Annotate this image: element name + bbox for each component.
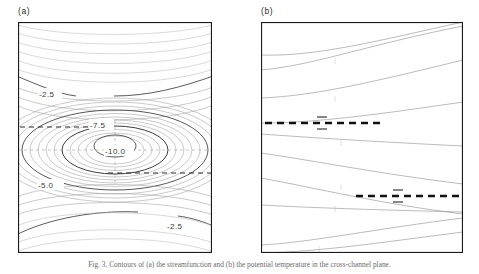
panel-b-frame (262, 23, 463, 253)
contour-line-1 (261, 26, 463, 70)
panel-a: (a) (18, 22, 212, 253)
contour-line-3 (261, 102, 463, 123)
contour-label-minus7p5: -7.5 (90, 121, 106, 130)
contour-line-5 (261, 153, 463, 184)
contour-label-minus2p5-bottom: -2.5 (167, 222, 183, 231)
figure-container: (a) (0, 0, 479, 274)
contour-group-bottom-faint-2 (18, 213, 212, 253)
panel-a-contour-labels: -2.5 -7.5 -10.0 -5.0 -2.5 (37, 88, 191, 231)
figure-caption: Fig. 3. Contours of (a) the streamfuncti… (0, 260, 479, 274)
panel-b-label: (b) (261, 6, 273, 16)
contour-label-minus5p0: -5.0 (38, 181, 54, 190)
panel-a-label: (a) (18, 6, 30, 16)
contour-line-0 (261, 22, 463, 55)
panel-b-contour-ticks (319, 58, 341, 252)
panel-a-plot: -2.5 -7.5 -10.0 -5.0 -2.5 (18, 22, 212, 253)
contour-group-top-faint (18, 24, 212, 82)
panel-b-plot (261, 22, 463, 253)
contour-label-minus10p0: -10.0 (105, 147, 125, 156)
contour-line-4 (261, 134, 463, 146)
panel-b: (b) (261, 22, 463, 253)
contour-line-7 (261, 205, 463, 212)
panel-a-contours: -2.5 -7.5 -10.0 -5.0 -2.5 (18, 24, 212, 253)
lower-dashed-marker (356, 190, 463, 202)
contour-label-minus2p5-top: -2.5 (39, 90, 55, 99)
upper-dashed-marker (265, 117, 381, 129)
panel-b-contours (261, 22, 463, 253)
contour-line-8 (261, 218, 463, 245)
